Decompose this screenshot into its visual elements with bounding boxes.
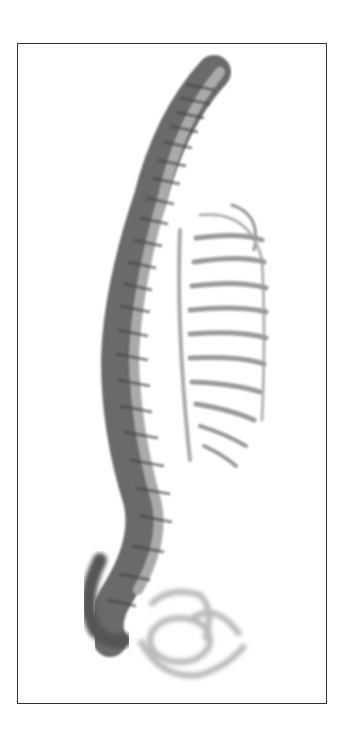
pelvis: [140, 592, 245, 676]
rib-cage: [179, 205, 266, 466]
spine-illustration: [0, 0, 359, 742]
